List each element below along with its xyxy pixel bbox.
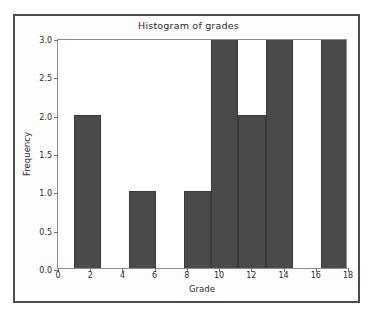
histogram-bar xyxy=(184,191,211,268)
x-tick-label: 4 xyxy=(120,271,125,280)
histogram-bars xyxy=(58,40,346,268)
y-tick-label: 3.0 xyxy=(39,36,52,45)
histogram-bar xyxy=(74,115,101,268)
y-tick-mark xyxy=(54,155,58,156)
y-tick-label: 2.5 xyxy=(39,74,52,83)
y-tick-label: 1.5 xyxy=(39,151,52,160)
y-axis-label-text: Frequency xyxy=(22,132,32,176)
x-tick-label: 12 xyxy=(246,271,256,280)
y-tick-mark xyxy=(54,117,58,118)
x-tick-label: 6 xyxy=(152,271,157,280)
y-tick-mark xyxy=(54,232,58,233)
x-axis-label: Grade xyxy=(57,284,347,294)
histogram-bar xyxy=(321,40,346,268)
x-tick-label: 14 xyxy=(278,271,288,280)
x-tick-label: 2 xyxy=(88,271,93,280)
histogram-bar xyxy=(266,40,293,268)
histogram-bar xyxy=(129,191,156,268)
y-tick-mark xyxy=(54,193,58,194)
figure-frame: Histogram of grades Frequency 0.00.51.01… xyxy=(13,14,360,303)
plot-area: 0.00.51.01.52.02.53.0 024681012141618 xyxy=(57,39,347,269)
y-tick-label: 2.0 xyxy=(39,112,52,121)
x-tick-label: 10 xyxy=(214,271,224,280)
screenshot-page: Histogram of grades Frequency 0.00.51.01… xyxy=(0,0,373,321)
x-tick-label: 18 xyxy=(343,271,353,280)
x-tick-label: 0 xyxy=(55,271,60,280)
y-tick-label: 0.0 xyxy=(39,266,52,275)
y-axis-label: Frequency xyxy=(21,39,33,269)
histogram-bar xyxy=(238,115,265,268)
chart-title: Histogram of grades xyxy=(15,20,362,31)
histogram-bar xyxy=(211,40,238,268)
y-tick-mark xyxy=(54,40,58,41)
y-tick-label: 0.5 xyxy=(39,227,52,236)
y-tick-label: 1.0 xyxy=(39,189,52,198)
x-tick-label: 8 xyxy=(184,271,189,280)
matplotlib-figure: Histogram of grades Frequency 0.00.51.01… xyxy=(15,16,362,305)
y-tick-mark xyxy=(54,78,58,79)
x-tick-label: 16 xyxy=(311,271,321,280)
